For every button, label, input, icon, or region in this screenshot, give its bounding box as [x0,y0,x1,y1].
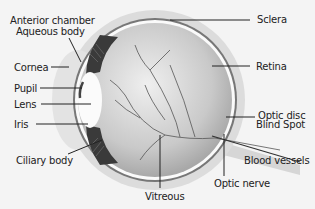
label-retina: Retina [256,61,287,72]
label-aqueous-body: Aqueous body [16,26,85,37]
label-anterior-chamber: Anterior chamber [10,15,95,26]
label-vitreous: Vitreous [145,191,184,202]
lens-shape [78,72,102,128]
label-cornea: Cornea [14,62,48,73]
label-ciliary-body: Ciliary body [16,155,73,166]
label-optic-nerve: Optic nerve [214,178,270,189]
label-iris: Iris [14,119,28,130]
label-blood-vessels: Blood vessels [244,155,309,166]
label-sclera: Sclera [257,14,287,25]
label-blind-spot: Blind Spot [256,119,305,130]
label-lens: Lens [14,99,36,110]
label-pupil: Pupil [14,83,37,94]
